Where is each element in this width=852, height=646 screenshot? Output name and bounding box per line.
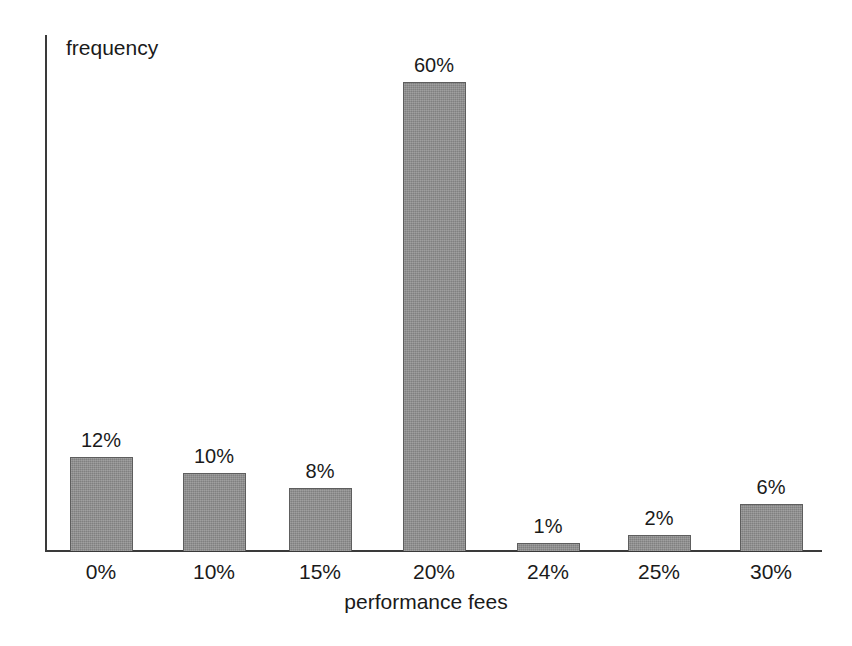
x-tick-label: 20% <box>391 560 478 584</box>
bar-value-label: 12% <box>58 429 145 452</box>
bar[interactable] <box>289 488 352 551</box>
bar-group: 8% <box>289 35 352 551</box>
bar-value-label: 10% <box>171 445 258 468</box>
bar[interactable] <box>740 504 803 551</box>
bar[interactable] <box>517 543 580 551</box>
bar-value-label: 1% <box>505 515 592 538</box>
bar-value-label: 8% <box>277 460 364 483</box>
bar-chart: frequency 12%10%8%60%1%2%6% performance … <box>0 0 852 646</box>
bar-value-label: 6% <box>728 476 815 499</box>
x-tick-label: 30% <box>728 560 815 584</box>
bar-group: 1% <box>517 35 580 551</box>
bar-value-label: 2% <box>616 507 703 530</box>
bar[interactable] <box>70 457 133 551</box>
bar-group: 6% <box>740 35 803 551</box>
x-tick-label: 24% <box>505 560 592 584</box>
bar[interactable] <box>403 82 466 551</box>
x-axis-title: performance fees <box>0 590 852 614</box>
bar-group: 10% <box>183 35 246 551</box>
x-tick-label: 15% <box>277 560 364 584</box>
bar-value-label: 60% <box>391 54 478 77</box>
bar-group: 2% <box>628 35 691 551</box>
x-tick-label: 25% <box>616 560 703 584</box>
x-tick-label: 10% <box>171 560 258 584</box>
bar[interactable] <box>628 535 691 551</box>
bar[interactable] <box>183 473 246 551</box>
x-tick-label: 0% <box>58 560 145 584</box>
plot-area: 12%10%8%60%1%2%6% <box>45 35 822 551</box>
bar-group: 60% <box>403 35 466 551</box>
bar-group: 12% <box>70 35 133 551</box>
